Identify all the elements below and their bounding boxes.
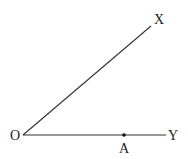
label-a: A [119, 141, 130, 156]
label-o: O [10, 128, 20, 143]
angle-diagram: O X Y A [0, 0, 188, 159]
ray-ox [23, 26, 151, 135]
point-a-marker [122, 133, 126, 137]
label-y: Y [168, 128, 178, 143]
label-x: X [154, 12, 164, 27]
